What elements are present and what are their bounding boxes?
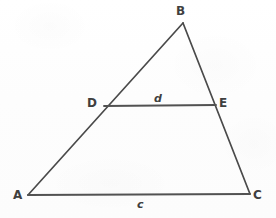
- vertex-label-E: E: [219, 97, 227, 109]
- vertex-label-D: D: [87, 97, 97, 109]
- edge-AC: [28, 194, 250, 195]
- triangle-edges: [28, 23, 250, 195]
- side-label-c: c: [137, 199, 144, 210]
- vertex-label-B: B: [176, 5, 185, 17]
- vertex-label-C: C: [253, 189, 262, 201]
- side-label-d: d: [154, 93, 162, 104]
- geometry-figure: B A C D E d c: [0, 0, 276, 218]
- edge-BC: [183, 23, 250, 194]
- edge-AB: [28, 23, 183, 195]
- vertex-label-A: A: [13, 189, 23, 201]
- triangle-drawing: [0, 0, 276, 218]
- edge-DE: [104, 105, 216, 106]
